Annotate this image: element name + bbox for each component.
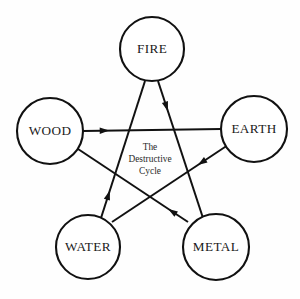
- node-label-earth: EARTH: [231, 121, 276, 136]
- center-caption-line1: The: [143, 142, 158, 152]
- wuxing-star-svg: The Destructive Cycle FIRE WOOD EARTH WA…: [0, 0, 300, 299]
- node-label-water: WATER: [65, 239, 111, 254]
- node-label-wood: WOOD: [29, 123, 72, 138]
- node-metal[interactable]: METAL: [183, 214, 249, 280]
- node-label-fire: FIRE: [137, 41, 167, 56]
- node-earth[interactable]: EARTH: [221, 96, 287, 162]
- node-water[interactable]: WATER: [56, 215, 120, 279]
- center-caption-line3: Cycle: [139, 166, 161, 176]
- center-caption-line2: Destructive: [128, 154, 171, 164]
- node-fire[interactable]: FIRE: [120, 17, 184, 81]
- node-wood[interactable]: WOOD: [17, 98, 83, 164]
- destructive-cycle-diagram: The Destructive Cycle FIRE WOOD EARTH WA…: [0, 0, 300, 299]
- node-label-metal: METAL: [193, 239, 239, 254]
